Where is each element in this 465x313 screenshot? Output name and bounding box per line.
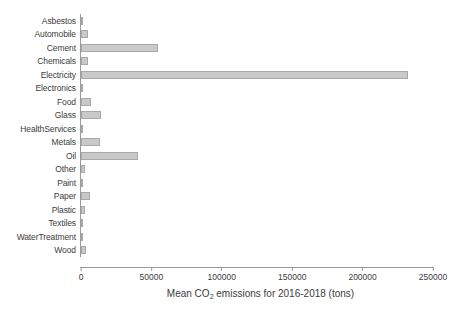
bar-row: WaterTreatment xyxy=(0,230,465,244)
x-tick-label: 0 xyxy=(79,272,84,282)
category-label: Automobile xyxy=(0,29,81,39)
category-label: WaterTreatment xyxy=(0,232,81,242)
bar xyxy=(81,71,408,79)
bar xyxy=(81,84,83,92)
x-tick-label: 100000 xyxy=(208,272,236,282)
bar-track xyxy=(81,82,433,96)
x-tick: 150000 xyxy=(278,267,306,282)
bar xyxy=(81,179,83,187)
x-tick: 250000 xyxy=(419,267,447,282)
category-label: Food xyxy=(0,97,81,107)
bar-track xyxy=(81,28,433,42)
category-label: Oil xyxy=(0,151,81,161)
bar-track xyxy=(81,55,433,69)
bar-track xyxy=(81,190,433,204)
x-tick-label: 150000 xyxy=(278,272,306,282)
bar-row: Paint xyxy=(0,176,465,190)
x-tick: 0 xyxy=(79,267,84,282)
bar-track xyxy=(81,136,433,150)
bar-rows: AsbestosAutomobileCementChemicalsElectri… xyxy=(0,14,465,257)
category-label: Other xyxy=(0,164,81,174)
bar-row: Automobile xyxy=(0,28,465,42)
bar xyxy=(81,98,91,106)
bar xyxy=(81,138,100,146)
bar-track xyxy=(81,14,433,28)
category-label: Asbestos xyxy=(0,16,81,26)
category-label: Plastic xyxy=(0,205,81,215)
category-label: Wood xyxy=(0,245,81,255)
bar-row: Textiles xyxy=(0,217,465,231)
bar-track xyxy=(81,163,433,177)
bar-row: Other xyxy=(0,163,465,177)
bar-track xyxy=(81,95,433,109)
x-tick-mark xyxy=(151,267,152,271)
bar-row: Metals xyxy=(0,136,465,150)
category-label: Paper xyxy=(0,191,81,201)
bar-row: Oil xyxy=(0,149,465,163)
bar xyxy=(81,219,83,227)
bar-track xyxy=(81,244,433,258)
bar-track xyxy=(81,122,433,136)
x-tick-mark xyxy=(362,267,363,271)
x-tick-label: 200000 xyxy=(348,272,376,282)
category-label: HealthServices xyxy=(0,124,81,134)
category-label: Metals xyxy=(0,137,81,147)
bar-row: Glass xyxy=(0,109,465,123)
bar-row: Chemicals xyxy=(0,55,465,69)
x-tick-label: 250000 xyxy=(419,272,447,282)
bar-track xyxy=(81,230,433,244)
bar xyxy=(81,165,85,173)
x-tick: 100000 xyxy=(208,267,236,282)
bar-track xyxy=(81,41,433,55)
bar-track xyxy=(81,109,433,123)
bar-row: Wood xyxy=(0,244,465,258)
category-label: Electronics xyxy=(0,83,81,93)
category-label: Glass xyxy=(0,110,81,120)
bar-row: Cement xyxy=(0,41,465,55)
bar-row: HealthServices xyxy=(0,122,465,136)
x-axis-title-before: Mean CO xyxy=(167,288,210,299)
bar-track xyxy=(81,176,433,190)
bar-row: Electricity xyxy=(0,68,465,82)
bar-row: Plastic xyxy=(0,203,465,217)
x-tick: 50000 xyxy=(140,267,164,282)
bar xyxy=(81,57,88,65)
bar-track xyxy=(81,203,433,217)
x-tick: 200000 xyxy=(348,267,376,282)
x-tick-mark xyxy=(433,267,434,271)
bar-row: Asbestos xyxy=(0,14,465,28)
bar-row: Food xyxy=(0,95,465,109)
bar-row: Electronics xyxy=(0,82,465,96)
bar-track xyxy=(81,217,433,231)
bar-track xyxy=(81,68,433,82)
bar xyxy=(81,192,90,200)
bar-row: Paper xyxy=(0,190,465,204)
x-axis-title-after: emissions for 2016-2018 (tons) xyxy=(214,288,355,299)
bar xyxy=(81,233,83,241)
x-axis-ticks: 050000100000150000200000250000 xyxy=(81,267,433,289)
bar xyxy=(81,30,88,38)
bar xyxy=(81,111,101,119)
bar xyxy=(81,125,83,133)
category-label: Cement xyxy=(0,43,81,53)
category-label: Textiles xyxy=(0,218,81,228)
bar xyxy=(81,246,86,254)
category-label: Electricity xyxy=(0,70,81,80)
x-tick-mark xyxy=(221,267,222,271)
bar xyxy=(81,44,158,52)
x-tick-mark xyxy=(80,267,81,271)
x-tick-label: 50000 xyxy=(140,272,164,282)
bar xyxy=(81,206,85,214)
bar xyxy=(81,152,138,160)
category-label: Chemicals xyxy=(0,56,81,66)
bar xyxy=(81,17,83,25)
bar-chart: AsbestosAutomobileCementChemicalsElectri… xyxy=(0,0,465,313)
category-label: Paint xyxy=(0,178,81,188)
x-tick-mark xyxy=(292,267,293,271)
x-axis-title: Mean CO2 emissions for 2016-2018 (tons) xyxy=(0,287,465,303)
bar-track xyxy=(81,149,433,163)
